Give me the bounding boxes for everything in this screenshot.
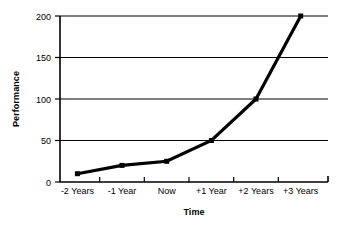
data-point-minus-1-year — [120, 163, 125, 168]
x-axis-title: Time — [183, 207, 204, 217]
data-point-plus-2-years — [254, 97, 259, 102]
y-axis-title: Performance — [11, 71, 21, 127]
x-tick-label-plus-3-years: +3 Years — [283, 186, 319, 196]
data-point-minus-2-years — [75, 171, 80, 176]
data-point-now — [164, 159, 169, 164]
x-tick-label-minus-2-years: -2 Years — [61, 186, 95, 196]
y-tick-label-150: 150 — [36, 53, 51, 63]
x-tick-label-minus-1-year: -1 Year — [108, 186, 137, 196]
performance-over-time-line-chart: 200 150 100 50 0 -2 Years -1 Year Now +1… — [0, 0, 343, 231]
y-tick-label-200: 200 — [36, 12, 51, 22]
y-tick-label-0: 0 — [46, 178, 51, 188]
y-tick-label-100: 100 — [36, 95, 51, 105]
chart-figure: 200 150 100 50 0 -2 Years -1 Year Now +1… — [0, 0, 343, 231]
x-tick-label-plus-2-years: +2 Years — [238, 186, 274, 196]
data-point-plus-1-year — [209, 138, 214, 143]
data-point-plus-3-years — [298, 14, 303, 19]
x-tick-label-now: Now — [158, 186, 177, 196]
y-tick-label-50: 50 — [41, 136, 51, 146]
x-tick-label-plus-1-year: +1 Year — [196, 186, 227, 196]
